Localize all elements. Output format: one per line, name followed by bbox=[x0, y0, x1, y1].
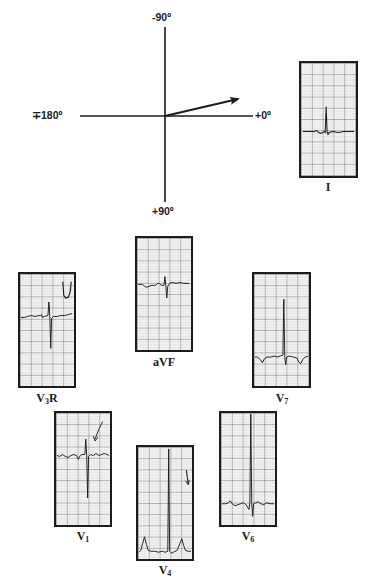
ecg-strip-lead-aVF bbox=[135, 236, 193, 352]
ecg-trace-lead-V1 bbox=[56, 413, 110, 525]
ecg-strip-lead-V3R bbox=[18, 272, 76, 388]
ecg-strip-lead-I bbox=[299, 61, 358, 178]
ecg-strip-lead-V7 bbox=[252, 272, 311, 388]
axis-label-right: +0º bbox=[255, 109, 271, 121]
axis-label-left: ∓180º bbox=[32, 109, 62, 121]
lead-label-I: I bbox=[308, 180, 348, 195]
ecg-trace-lead-V4 bbox=[138, 447, 192, 559]
lead-label-V3R: V3R bbox=[27, 391, 67, 406]
lead-label-V7: V7 bbox=[262, 391, 302, 406]
ecg-strip-lead-V6 bbox=[219, 411, 277, 527]
ecg-trace-lead-V7 bbox=[254, 274, 309, 386]
axis-label-top: -90º bbox=[152, 11, 171, 23]
lead-label-V4: V4 bbox=[145, 563, 185, 578]
ecg-strip-lead-V4 bbox=[136, 445, 194, 561]
ecg-trace-lead-V6 bbox=[221, 413, 275, 525]
qrs-axis-vector-arrow bbox=[165, 99, 238, 116]
ecg-strip-lead-V1 bbox=[54, 411, 112, 527]
ecg-trace-lead-V3R bbox=[20, 274, 74, 386]
axis-label-bottom: +90º bbox=[152, 205, 174, 217]
ecg-trace-lead-I bbox=[301, 63, 356, 176]
lead-label-V1: V1 bbox=[63, 529, 103, 544]
lead-label-V6: V6 bbox=[228, 529, 268, 544]
lead-label-aVF: aVF bbox=[144, 355, 184, 370]
ecg-trace-lead-aVF bbox=[137, 238, 191, 350]
